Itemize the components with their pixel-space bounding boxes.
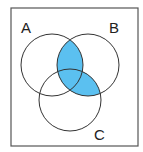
venn-diagram: A B C [0, 0, 143, 152]
label-a: A [21, 19, 31, 36]
label-c: C [94, 126, 105, 143]
label-b: B [109, 19, 119, 36]
